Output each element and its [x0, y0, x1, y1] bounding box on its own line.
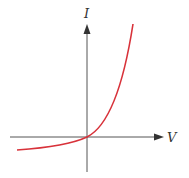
- iv-characteristic-diagram: I V: [0, 0, 189, 178]
- y-axis-label: I: [83, 6, 90, 21]
- x-axis-label: V: [167, 130, 178, 145]
- iv-curve: [17, 24, 133, 150]
- y-axis-arrow-icon: [84, 24, 91, 34]
- x-axis-arrow-icon: [154, 134, 164, 141]
